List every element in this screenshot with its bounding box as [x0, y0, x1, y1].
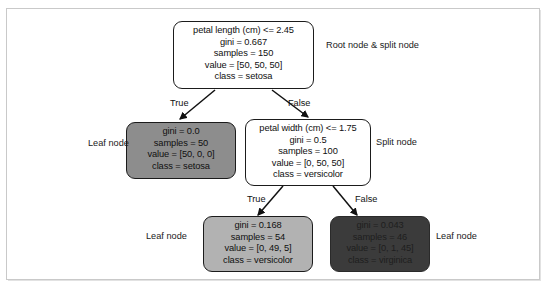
- callout-line: Leaf: [88, 138, 106, 148]
- node-line: value = [0, 1, 45]: [331, 243, 429, 255]
- node-line: value = [0, 49, 5]: [204, 243, 312, 255]
- callout-line: node: [456, 231, 476, 241]
- node-line: samples = 54: [204, 232, 312, 244]
- node-line: gini = 0.168: [204, 220, 312, 232]
- tree-node-split-petal-width[interactable]: petal width (cm) <= 1.75 gini = 0.5 samp…: [245, 119, 371, 186]
- callout-leaf-node-left: Leaf node: [88, 138, 129, 149]
- node-line: class = versicolor: [246, 169, 370, 181]
- node-line: gini = 0.0: [127, 126, 235, 138]
- callout-root-node: Root node & split node: [326, 40, 419, 51]
- tree-node-leaf-versicolor[interactable]: gini = 0.168 samples = 54 value = [0, 49…: [203, 216, 313, 272]
- callout-split-node-right: Split node: [376, 137, 417, 148]
- node-line: petal width (cm) <= 1.75: [246, 123, 370, 135]
- callout-line: Leaf: [146, 231, 164, 241]
- tree-node-leaf-virginica[interactable]: gini = 0.043 samples = 46 value = [0, 1,…: [330, 216, 430, 272]
- node-line: petal length (cm) <= 2.45: [174, 25, 313, 37]
- node-line: class = virginica: [331, 255, 429, 267]
- node-line: samples = 100: [246, 146, 370, 158]
- edge-label-root-false: False: [288, 98, 310, 108]
- callout-line: node: [396, 137, 416, 147]
- callout-leaf-node-bottom-left: Leaf node: [146, 231, 187, 242]
- node-line: samples = 50: [127, 138, 235, 150]
- node-line: samples = 150: [174, 48, 313, 60]
- edge-label-split-false: False: [355, 194, 377, 204]
- node-line: gini = 0.5: [246, 135, 370, 147]
- callout-line: node: [108, 138, 128, 148]
- callout-line: Root node: [326, 40, 368, 50]
- node-line: value = [50, 0, 0]: [127, 149, 235, 161]
- callout-line: Split: [376, 137, 394, 147]
- callout-line: node: [166, 231, 186, 241]
- node-line: class = versicolor: [204, 255, 312, 267]
- node-line: class = setosa: [127, 161, 235, 173]
- decision-tree-figure: petal length (cm) <= 2.45 gini = 0.667 s…: [0, 0, 548, 290]
- callout-leaf-node-bottom-right: Leaf node: [436, 231, 477, 242]
- callout-line: & split node: [371, 40, 419, 50]
- node-line: gini = 0.043: [331, 220, 429, 232]
- edge-label-split-true: True: [247, 194, 266, 204]
- edge-label-root-true: True: [170, 98, 189, 108]
- node-line: gini = 0.667: [174, 37, 313, 49]
- tree-node-root[interactable]: petal length (cm) <= 2.45 gini = 0.667 s…: [173, 21, 314, 89]
- node-line: class = setosa: [174, 71, 313, 83]
- tree-node-leaf-setosa[interactable]: gini = 0.0 samples = 50 value = [50, 0, …: [126, 122, 236, 179]
- node-line: samples = 46: [331, 232, 429, 244]
- node-line: value = [0, 50, 50]: [246, 158, 370, 170]
- callout-line: Leaf: [436, 231, 454, 241]
- node-line: value = [50, 50, 50]: [174, 60, 313, 72]
